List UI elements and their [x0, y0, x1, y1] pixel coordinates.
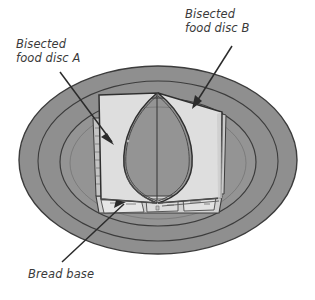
bisected-sandwich-figure: Bisected food disc A Bisected food disc … — [0, 0, 315, 300]
label-bisected-food-disc-b: Bisected food disc B — [185, 8, 250, 35]
label-bisected-food-disc-a: Bisected food disc A — [16, 38, 81, 65]
disc-a-surface-speck — [127, 140, 130, 143]
bread-base-crumb — [156, 206, 159, 210]
plate — [19, 66, 297, 254]
label-bread-base: Bread base — [28, 268, 94, 282]
